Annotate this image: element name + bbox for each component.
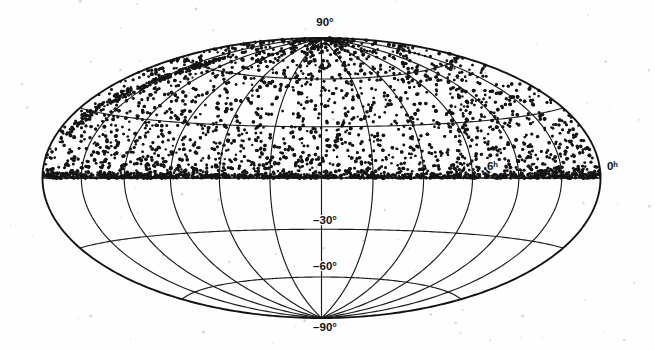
data-point <box>314 153 317 156</box>
paper-speckle <box>185 294 186 295</box>
data-point <box>540 150 543 153</box>
data-point <box>592 174 595 177</box>
data-point <box>128 128 131 131</box>
data-point <box>265 65 268 68</box>
data-point <box>154 82 157 85</box>
data-point <box>46 153 49 156</box>
data-point <box>149 168 152 171</box>
data-point <box>400 44 403 47</box>
data-point <box>392 72 395 75</box>
data-point <box>484 141 487 144</box>
data-point <box>219 161 222 164</box>
data-point <box>310 176 313 179</box>
data-point <box>304 83 307 86</box>
data-point <box>357 73 359 75</box>
data-point <box>561 128 564 131</box>
data-point <box>302 120 304 122</box>
data-point <box>327 44 329 46</box>
data-point <box>341 142 344 145</box>
data-point <box>167 154 170 157</box>
data-point <box>235 119 239 123</box>
data-point <box>244 77 247 80</box>
data-point <box>129 176 132 179</box>
data-point <box>110 131 113 134</box>
data-point <box>114 134 118 138</box>
data-point <box>563 108 566 111</box>
data-point <box>132 151 135 154</box>
data-point <box>282 137 285 140</box>
data-point <box>194 101 197 104</box>
data-point <box>495 83 498 86</box>
data-point <box>379 65 382 68</box>
data-point <box>393 89 396 92</box>
data-point <box>370 173 373 176</box>
data-point <box>165 148 167 150</box>
data-point <box>122 154 126 158</box>
data-point <box>121 167 123 169</box>
data-point <box>199 173 202 176</box>
data-point <box>169 175 172 178</box>
data-point <box>487 148 490 151</box>
data-point <box>222 144 226 148</box>
data-point <box>316 175 319 178</box>
data-point <box>541 113 544 116</box>
data-point <box>135 143 137 145</box>
data-point <box>422 173 425 176</box>
data-point <box>400 106 403 109</box>
data-point <box>346 49 349 52</box>
data-point <box>326 49 329 52</box>
data-point <box>336 133 339 136</box>
data-point <box>207 126 211 130</box>
data-point <box>106 103 109 106</box>
data-point <box>416 108 420 112</box>
data-point <box>465 80 468 83</box>
data-point <box>344 94 347 97</box>
data-point <box>66 172 69 175</box>
data-point <box>374 169 378 173</box>
data-point <box>377 174 380 177</box>
data-point <box>251 175 254 178</box>
data-point <box>432 105 436 109</box>
data-point <box>354 72 357 75</box>
data-point <box>264 60 267 63</box>
data-point <box>338 55 342 59</box>
data-point <box>184 103 187 106</box>
data-point <box>502 85 504 87</box>
data-point <box>269 46 272 49</box>
data-point <box>191 67 194 70</box>
data-point <box>85 118 88 121</box>
data-point <box>537 95 540 98</box>
data-point <box>376 138 379 141</box>
data-point <box>217 152 220 155</box>
data-point <box>349 58 352 61</box>
paper-speckle <box>384 209 386 211</box>
data-point <box>224 175 227 178</box>
data-point <box>172 58 176 62</box>
data-point <box>145 85 148 88</box>
data-point <box>259 140 262 143</box>
paper-speckle <box>459 332 461 334</box>
data-point <box>388 54 392 58</box>
data-point <box>169 116 172 119</box>
data-point <box>77 157 80 160</box>
data-point <box>242 82 244 84</box>
data-point <box>398 72 401 75</box>
data-point <box>575 174 578 177</box>
data-point <box>323 104 327 108</box>
data-point <box>420 156 422 158</box>
data-point <box>305 77 308 80</box>
data-point <box>347 39 350 42</box>
data-point <box>324 154 327 157</box>
data-point <box>559 143 562 146</box>
data-point <box>163 70 165 72</box>
data-point <box>155 113 158 116</box>
data-point <box>360 47 363 50</box>
paper-speckle <box>79 0 82 3</box>
data-point <box>309 40 311 42</box>
data-point <box>214 165 217 168</box>
data-point <box>241 51 244 54</box>
data-point <box>144 121 147 124</box>
data-point <box>205 163 208 166</box>
data-point <box>278 56 281 59</box>
data-point <box>287 41 289 43</box>
